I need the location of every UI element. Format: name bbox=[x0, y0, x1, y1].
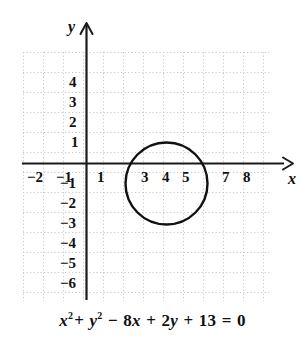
x-tick-label-4: 4 bbox=[162, 170, 170, 185]
x-tick-label-7: 7 bbox=[222, 170, 230, 185]
x-tick-label-1: 1 bbox=[97, 170, 105, 185]
x-axis-label: x bbox=[288, 170, 296, 188]
equation-x-var: x bbox=[59, 311, 68, 330]
y-tick-label--2: −2 bbox=[60, 196, 76, 211]
equation-8x-coefficient: 8 bbox=[123, 311, 132, 330]
x-tick-label-5: 5 bbox=[182, 170, 190, 185]
equation-y-exponent: 2 bbox=[97, 310, 102, 321]
y-tick-label--5: −5 bbox=[60, 256, 76, 271]
y-tick-label-4: 4 bbox=[69, 75, 77, 90]
x-tick-label-8: 8 bbox=[243, 170, 251, 185]
equation-rhs: 0 bbox=[237, 311, 246, 330]
x-tick-label-3: 3 bbox=[141, 170, 149, 185]
equation-plus-3: + bbox=[182, 311, 194, 330]
equation-plus-2: + bbox=[145, 311, 157, 330]
y-tick-label-1: 1 bbox=[71, 135, 79, 150]
equation-equals: = bbox=[221, 311, 233, 330]
x-tick-label--2: −2 bbox=[27, 170, 43, 185]
y-tick-label-3: 3 bbox=[69, 95, 77, 110]
y-tick-label--1: −1 bbox=[60, 176, 76, 191]
y-tick-label-2: 2 bbox=[69, 115, 77, 130]
y-axis-label: y bbox=[68, 18, 75, 36]
axes-and-curve bbox=[0, 0, 305, 350]
y-tick-label--3: −3 bbox=[60, 216, 76, 231]
equation-minus: − bbox=[107, 311, 119, 330]
equation-constant: 13 bbox=[199, 311, 216, 330]
y-axis bbox=[81, 23, 93, 300]
x-axis bbox=[22, 158, 293, 170]
equation-plus-1: + bbox=[73, 311, 85, 330]
y-tick-label--4: −4 bbox=[60, 236, 76, 251]
equation-8x-var: x bbox=[132, 311, 141, 330]
circle-graph-figure: −2 −1 1 3 4 5 7 8 4 3 2 1 −1 −2 −3 −4 −5… bbox=[0, 0, 305, 350]
equation-2y-coefficient: 2 bbox=[162, 311, 171, 330]
equation-caption: x2+ y2 − 8x + 2y + 13 = 0 bbox=[0, 311, 305, 331]
y-tick-label--6: −6 bbox=[60, 276, 76, 291]
equation-2y-var: y bbox=[170, 311, 178, 330]
